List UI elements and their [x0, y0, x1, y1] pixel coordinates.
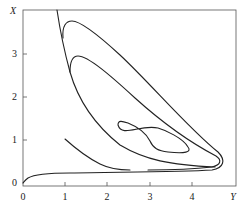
curve-inner [118, 121, 189, 152]
curve-lower [65, 139, 130, 170]
x-tick-4: 4 [190, 191, 195, 202]
x-axis: 0 1 2 3 4 Y [21, 182, 238, 202]
y-tick-2: 2 [12, 91, 17, 102]
y-axis-label: X [9, 5, 17, 16]
y-tick-3: 3 [12, 48, 17, 59]
curve-middle [70, 56, 220, 170]
y-tick-1: 1 [12, 134, 17, 145]
curve-outer [23, 21, 223, 183]
plot-frame [23, 10, 236, 186]
x-tick-1: 1 [63, 191, 68, 202]
y-tick-0: 0 [12, 177, 17, 188]
curve-separatrix [57, 10, 215, 167]
phase-plot: 3 2 1 0 X 0 1 2 3 4 Y [0, 0, 243, 207]
x-tick-2: 2 [105, 191, 110, 202]
y-axis: 3 2 1 0 X [9, 5, 27, 188]
x-tick-3: 3 [148, 191, 153, 202]
x-tick-0: 0 [21, 191, 26, 202]
x-axis-label: Y [230, 191, 237, 202]
